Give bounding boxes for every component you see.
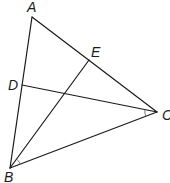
angle-mark-b	[17, 159, 21, 164]
label-d: D	[8, 77, 18, 93]
segment-cd	[22, 85, 157, 112]
label-b: B	[4, 169, 13, 183]
segment-bc	[10, 112, 157, 168]
segment-ac	[32, 17, 157, 112]
label-c: C	[162, 107, 170, 123]
label-e: E	[91, 44, 101, 60]
angle-mark-c	[145, 110, 146, 117]
label-a: A	[26, 0, 36, 15]
triangle-diagram: A B C D E	[0, 0, 170, 183]
segment-be	[10, 60, 89, 168]
